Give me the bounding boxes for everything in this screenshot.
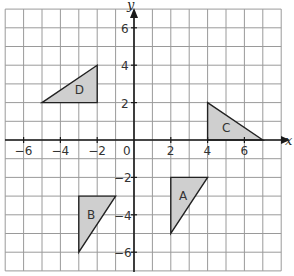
origin-label: 0: [123, 144, 131, 158]
y-tick-label: 4: [121, 59, 129, 73]
y-tick-label: 6: [121, 22, 129, 36]
y-tick-label: −4: [114, 209, 132, 223]
x-tick-label: −6: [15, 144, 33, 158]
x-tick-label: 6: [240, 144, 248, 158]
coordinate-grid: ABCD x y 0 −6−4−2246642−2−4−6: [0, 0, 294, 276]
triangle-label: C: [222, 121, 230, 135]
x-tick-label: −4: [51, 144, 69, 158]
y-axis-label: y: [126, 0, 135, 12]
triangle-label: B: [87, 208, 95, 222]
y-tick-label: −6: [114, 246, 132, 260]
x-tick-label: 4: [204, 144, 212, 158]
triangle-label: D: [75, 83, 84, 97]
y-tick-label: 2: [121, 97, 129, 111]
x-axis-label: x: [285, 133, 293, 148]
triangle-label: A: [179, 189, 188, 203]
x-tick-label: −2: [88, 144, 106, 158]
x-tick-label: 2: [167, 144, 175, 158]
y-tick-label: −2: [114, 171, 132, 185]
tick-labels: −6−4−2246642−2−4−6: [15, 22, 248, 260]
